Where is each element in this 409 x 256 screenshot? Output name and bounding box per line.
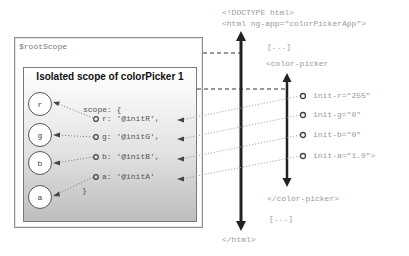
attr-init-b: init-b="0" bbox=[313, 130, 361, 139]
scope-node-g: g bbox=[28, 123, 52, 147]
html-open-tag: <html ng-app="colorPickerApp"> bbox=[222, 19, 366, 28]
attr-b-dot-icon bbox=[301, 133, 306, 138]
scope-property-r: r: '@initR', bbox=[102, 114, 160, 123]
html-arrow-down-head bbox=[236, 221, 246, 231]
color-picker-close-tag: </color-picker> bbox=[267, 194, 339, 203]
scope-node-a: a bbox=[28, 185, 52, 209]
scope-open-text: scope: { bbox=[83, 105, 121, 114]
scope-close-text: } bbox=[82, 186, 87, 195]
html-close-tag: </html> bbox=[222, 235, 256, 244]
attr-init-a: init-a="1.0"> bbox=[313, 151, 375, 160]
attr-init-r: init-r="255" bbox=[313, 91, 371, 100]
scope-property-a: a: '@initA' bbox=[102, 172, 155, 181]
ellipsis-bottom: [...] bbox=[269, 214, 293, 223]
scope-node-b: b bbox=[28, 151, 52, 175]
attr-a-dot-icon bbox=[301, 154, 306, 159]
doctype-text: <!DOCTYPE html> bbox=[222, 8, 294, 17]
attr-g-dot-icon bbox=[301, 113, 306, 118]
root-scope-label: $rootScope bbox=[19, 42, 67, 51]
ellipsis-top: [...] bbox=[267, 42, 291, 51]
scope-property-b: b: '@initB', bbox=[102, 152, 160, 161]
color-picker-open-tag: <color-picker bbox=[266, 59, 328, 68]
attr-init-g: init-g="0" bbox=[313, 110, 361, 119]
scope-node-r: r bbox=[28, 92, 52, 116]
html-arrow-up-head bbox=[236, 31, 246, 41]
color-picker-arrow-up-head bbox=[283, 73, 292, 82]
isolated-scope-title: Isolated scope of colorPicker 1 bbox=[24, 71, 196, 82]
color-picker-arrow-down-head bbox=[283, 178, 292, 187]
scope-property-g: g: '@initG', bbox=[102, 132, 160, 141]
attr-r-dot-icon bbox=[301, 94, 306, 99]
